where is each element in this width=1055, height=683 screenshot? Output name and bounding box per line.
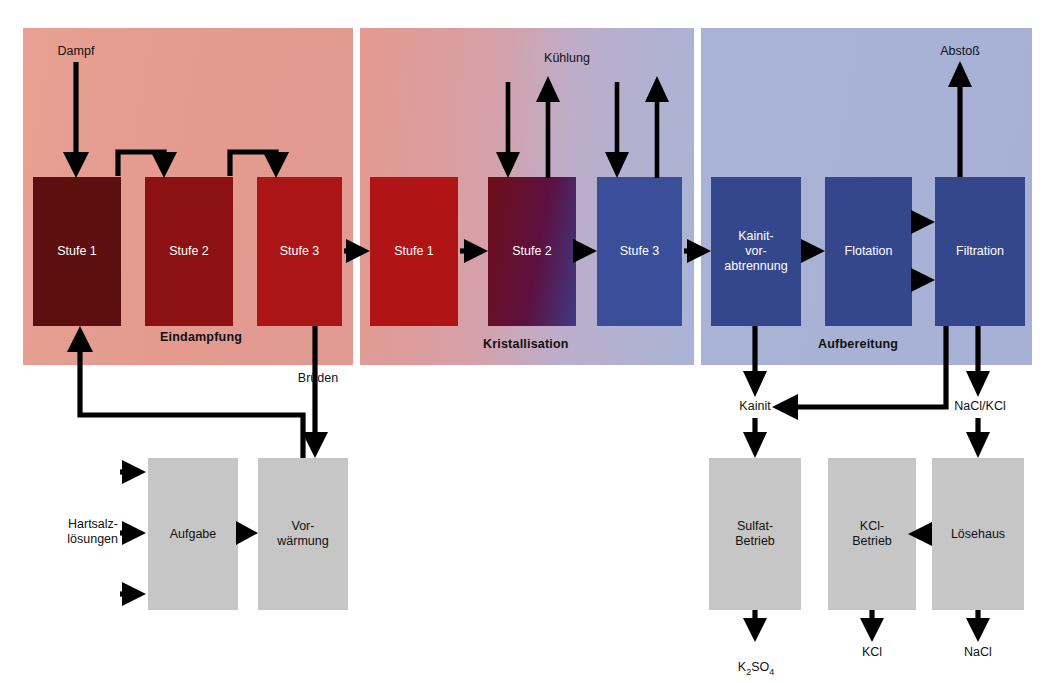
panel-label-aufbereitung: Aufbereitung bbox=[818, 337, 898, 351]
box-label: Vor- wärmung bbox=[277, 519, 328, 549]
label-kuehlung: Kühlung bbox=[522, 51, 612, 66]
box-kcl-betrieb[interactable]: KCl- Betrieb bbox=[828, 458, 916, 610]
formula-k: K bbox=[738, 660, 746, 674]
box-kainit-vorabtrennung[interactable]: Kainit- vor- abtrennung bbox=[711, 177, 801, 326]
box-label: Stufe 1 bbox=[394, 244, 434, 259]
label-dampf: Dampf bbox=[36, 44, 116, 59]
arrow-sulfat-betrieb-to-k2so4 bbox=[743, 610, 767, 642]
box-label: Flotation bbox=[845, 244, 893, 259]
process-flow-diagram: Stufe 1 Stufe 2 Stufe 3 Stufe 1 Stufe 2 … bbox=[0, 0, 1055, 683]
arrow-feed-top-to-aufgabe bbox=[120, 460, 146, 484]
formula-so: SO bbox=[751, 660, 769, 674]
arrow-loesehaus-to-nacl bbox=[966, 610, 990, 642]
box-label: Stufe 2 bbox=[512, 244, 552, 259]
arrow-kainit-to-sulfat-betrieb bbox=[743, 418, 767, 458]
label-naclkcl: NaCl/KCl bbox=[930, 399, 1030, 414]
box-kristallisation-stufe-3[interactable]: Stufe 3 bbox=[597, 177, 682, 326]
box-label: Stufe 1 bbox=[57, 244, 97, 259]
box-label: Filtration bbox=[956, 244, 1004, 259]
label-kcl-product: KCl bbox=[828, 645, 916, 660]
arrow-kcl-betrieb-to-kcl bbox=[860, 610, 884, 642]
box-label: Stufe 3 bbox=[620, 244, 660, 259]
arrow-aufgabe-to-vorwaermung bbox=[236, 521, 258, 545]
label-brueden: Brüden bbox=[278, 371, 358, 386]
panel-label-kristallisation: Kristallisation bbox=[483, 337, 569, 351]
box-flotation[interactable]: Flotation bbox=[825, 177, 912, 326]
label-abstoss: Abstoß bbox=[915, 44, 1005, 59]
label-k2so4: K2SO4 bbox=[710, 645, 802, 677]
box-filtration[interactable]: Filtration bbox=[935, 177, 1025, 326]
box-vorwaermung[interactable]: Vor- wärmung bbox=[258, 458, 348, 610]
box-eindampfung-stufe-2[interactable]: Stufe 2 bbox=[145, 177, 233, 326]
formula-so-sub: 4 bbox=[769, 667, 774, 677]
box-label: KCl- Betrieb bbox=[852, 519, 892, 549]
box-label: Aufgabe bbox=[170, 527, 217, 542]
box-label: Lösehaus bbox=[951, 527, 1005, 542]
arrow-naclkcl-to-loesehaus bbox=[966, 418, 990, 458]
box-label: Stufe 2 bbox=[169, 244, 209, 259]
label-nacl-product: NaCl bbox=[932, 645, 1024, 660]
label-kainit: Kainit bbox=[710, 399, 800, 414]
arrow-feed-bottom-to-aufgabe bbox=[120, 582, 146, 606]
box-label: Stufe 3 bbox=[280, 244, 320, 259]
box-loesehaus[interactable]: Lösehaus bbox=[932, 458, 1024, 610]
box-eindampfung-stufe-1[interactable]: Stufe 1 bbox=[33, 177, 121, 326]
arrow-feed-middle-to-aufgabe bbox=[120, 521, 146, 545]
panel-label-eindampfung: Eindampfung bbox=[160, 330, 242, 344]
box-label: Kainit- vor- abtrennung bbox=[724, 229, 787, 273]
label-hartsalzloesungen: Hartsalz- lösungen bbox=[8, 517, 118, 547]
box-kristallisation-stufe-1[interactable]: Stufe 1 bbox=[370, 177, 458, 326]
box-kristallisation-stufe-2[interactable]: Stufe 2 bbox=[488, 177, 576, 326]
box-label: Sulfat- Betrieb bbox=[735, 519, 775, 549]
box-sulfat-betrieb[interactable]: Sulfat- Betrieb bbox=[709, 458, 801, 610]
box-eindampfung-stufe-3[interactable]: Stufe 3 bbox=[257, 177, 342, 326]
box-aufgabe[interactable]: Aufgabe bbox=[148, 458, 238, 610]
